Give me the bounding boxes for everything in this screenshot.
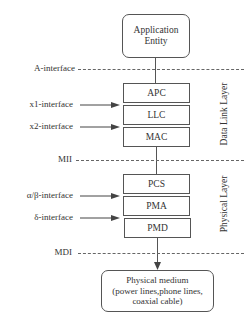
- alpha-beta-arrow-icon: [80, 193, 120, 199]
- physical-medium-line3: coaxial cable): [112, 296, 202, 307]
- application-entity-box: Application Entity: [122, 14, 190, 58]
- pmd-block: PMD: [124, 218, 191, 238]
- pcs-label: PCS: [148, 179, 165, 190]
- physical-layer-label: Physical Layer: [219, 173, 229, 235]
- mii-label: MII: [30, 154, 72, 164]
- mii-dashed-line: [76, 160, 244, 161]
- pcs-block: PCS: [123, 174, 190, 194]
- apc-block: APC: [123, 83, 190, 103]
- mdi-dashed-line: [78, 253, 244, 254]
- application-entity-line1: Application: [134, 25, 179, 36]
- connector-entity-apc: [155, 57, 156, 83]
- apc-label: APC: [147, 88, 165, 99]
- physical-medium-box: Physical medium (power lines,phone lines…: [101, 270, 214, 312]
- delta-arrow-icon: [80, 215, 120, 221]
- alpha-beta-interface-label: α/β-interface: [5, 190, 73, 200]
- llc-block: LLC: [123, 105, 190, 125]
- a-interface-dashed-line: [78, 69, 244, 70]
- physical-medium-line1: Physical medium: [112, 275, 202, 286]
- llc-label: LLC: [148, 110, 166, 121]
- pma-block: PMA: [123, 196, 190, 216]
- mdi-label: MDI: [30, 247, 72, 257]
- physical-medium-line2: (power lines,phone lines,: [112, 286, 202, 297]
- delta-interface-label: δ-interface: [5, 212, 73, 222]
- pma-label: PMA: [146, 201, 167, 212]
- connector-pmd-medium: [157, 237, 158, 265]
- data-link-layer-label: Data Link Layer: [219, 78, 229, 150]
- mac-label: MAC: [146, 132, 168, 143]
- x2-interface-label: x2-interface: [5, 121, 73, 131]
- application-entity-line2: Entity: [134, 36, 179, 47]
- x1-arrow-icon: [80, 102, 120, 108]
- x1-interface-label: x1-interface: [5, 99, 73, 109]
- x2-arrow-icon: [80, 124, 120, 130]
- pmd-label: PMD: [147, 223, 168, 234]
- mac-block: MAC: [123, 127, 190, 147]
- a-interface-label: A-interface: [10, 63, 75, 73]
- arrowhead-down-icon: [154, 262, 161, 270]
